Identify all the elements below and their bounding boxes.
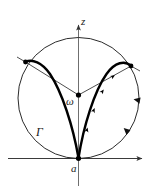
circle-direction-arrows xyxy=(122,96,141,135)
curve-left-branch xyxy=(26,61,79,158)
omega-center-label: ω xyxy=(66,96,74,107)
z-axis-label: z xyxy=(81,16,85,27)
radius-right xyxy=(79,66,132,95)
point-tangency-left xyxy=(23,60,28,65)
figure-container: z ω Γ a xyxy=(0,0,151,191)
curve-right-branch xyxy=(79,63,132,158)
a-point-label: a xyxy=(71,163,77,174)
point-tangency-right xyxy=(129,64,134,69)
point-center-omega xyxy=(76,92,81,97)
gamma-circle-label: Γ xyxy=(36,126,43,138)
point-origin-a xyxy=(76,156,81,161)
